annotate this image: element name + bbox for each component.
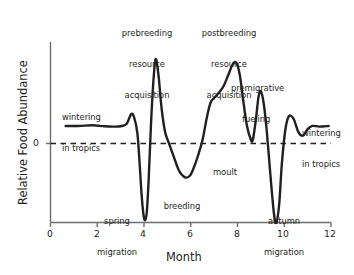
annotation-spring-migration: spring migration (85, 196, 149, 275)
annotation-line: breeding (155, 201, 209, 211)
annotation-line: fueling (231, 114, 284, 124)
y-tick-label-zero: 0 (33, 137, 39, 148)
annotation-wintering-right: wintering in tropics (302, 108, 341, 190)
y-axis-title: Relative Food Abundance (16, 60, 30, 205)
annotation-line: moult (208, 167, 242, 177)
annotation-line: in tropics (302, 159, 341, 169)
annotation-line: spring (85, 216, 149, 226)
x-tick-label-12: 12 (320, 228, 340, 239)
annotation-breeding: breeding (155, 181, 209, 232)
x-tick-label-8: 8 (227, 228, 247, 239)
annotation-line: wintering (62, 112, 101, 122)
annotation-line: migration (85, 247, 149, 257)
annotation-wintering-left: wintering in tropics (62, 92, 101, 174)
annotation-line: wintering (302, 128, 341, 138)
annotation-premigrative-fueling: premigrative fueling (231, 63, 284, 145)
annotation-line: resource (108, 59, 186, 69)
annotation-prebreeding: prebreeding resource acquisition (108, 8, 186, 120)
chart-figure: Relative Food Abundance 0 Month 0 2 4 6 … (0, 0, 354, 275)
annotation-line: prebreeding (108, 28, 186, 38)
annotation-autumn-migration: autumn migration (252, 196, 316, 275)
annotation-line: premigrative (231, 83, 284, 93)
annotation-line: acquisition (108, 90, 186, 100)
annotation-line: migration (252, 247, 316, 257)
annotation-moult: moult (208, 147, 242, 198)
annotation-line: postbreeding (188, 28, 270, 38)
annotation-line: in tropics (62, 143, 101, 153)
x-axis-title: Month (166, 250, 202, 264)
annotation-line: autumn (252, 216, 316, 226)
x-tick-label-0: 0 (40, 228, 60, 239)
